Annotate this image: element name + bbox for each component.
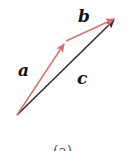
label-a: a (18, 60, 29, 80)
vector-b (66, 19, 114, 41)
label-c: c (77, 68, 88, 88)
vector-c (17, 20, 114, 115)
caption: (a) (53, 143, 72, 151)
label-b: b (78, 6, 90, 26)
vector-diagram: a b c (a) (0, 0, 133, 151)
